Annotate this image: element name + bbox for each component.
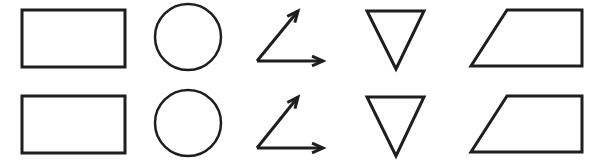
horizontal-arrow — [257, 56, 323, 66]
shape-row-2 — [22, 90, 582, 156]
circle-shape — [155, 90, 221, 156]
rectangle-shape — [22, 10, 125, 67]
trapezoid-shape — [471, 10, 582, 66]
angle-arrows-shape — [257, 97, 323, 153]
horizontal-arrow — [257, 143, 323, 153]
diagonal-arrow-shaft — [257, 97, 298, 148]
inverted-triangle-shape — [367, 97, 424, 156]
diagonal-arrow — [257, 11, 298, 61]
diagonal-arrow-shaft — [257, 11, 298, 61]
rectangle-shape — [22, 96, 125, 153]
angle-arrows-shape — [257, 11, 323, 66]
circle-shape — [155, 4, 221, 70]
diagonal-arrow — [257, 97, 298, 148]
shape-row-1 — [22, 4, 582, 70]
inverted-triangle-shape — [367, 11, 424, 69]
shapes-diagram — [0, 0, 598, 165]
trapezoid-shape — [471, 96, 582, 152]
